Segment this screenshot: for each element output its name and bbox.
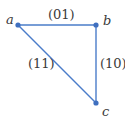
vertex-b — [93, 22, 98, 27]
vertex-label-c: c — [102, 104, 110, 119]
edge-label-a-c: (11) — [28, 56, 55, 71]
edge-label-a-b: (01) — [48, 7, 75, 22]
graph-canvas: a b c (01) (10) (11) — [0, 0, 125, 122]
vertex-c — [93, 100, 98, 105]
vertex-label-b: b — [103, 13, 111, 28]
graph-diagram: a b c (01) (10) (11) — [0, 0, 125, 122]
vertex-label-a: a — [6, 12, 14, 27]
edge-label-b-c: (10) — [100, 56, 125, 71]
vertex-a — [15, 22, 20, 27]
